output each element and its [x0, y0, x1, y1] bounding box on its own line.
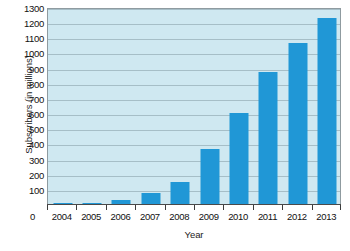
bar-slot	[224, 9, 253, 204]
y-tick-label: 1000	[24, 48, 44, 59]
x-axis-tick-labels: 2004200520062007200820092010201120122013	[47, 211, 341, 225]
x-tick-mark	[165, 205, 166, 210]
x-tick-label: 2007	[140, 211, 160, 222]
origin-label: 0	[30, 211, 35, 222]
y-tick-label: 1100	[25, 33, 44, 44]
y-tick-label: 800	[29, 78, 44, 89]
bar-slot	[313, 9, 341, 204]
y-tick-label: 700	[29, 93, 44, 104]
x-axis-title: Year	[47, 229, 341, 240]
y-tick-label: 300	[29, 154, 44, 165]
bar-2010	[230, 113, 249, 204]
x-tick-label: 2004	[52, 211, 72, 222]
x-tick-mark	[340, 205, 341, 210]
x-tick-label: 2010	[228, 211, 248, 222]
bar-2012	[288, 43, 307, 204]
y-tick-label: 400	[29, 139, 44, 150]
y-tick-label: 500	[29, 124, 44, 135]
bars-group	[48, 9, 340, 204]
bar-slot	[77, 9, 106, 204]
bar-slot	[48, 9, 77, 204]
x-tick-label: 2013	[316, 211, 336, 222]
bar-slot	[166, 9, 195, 204]
y-tick-label: 200	[29, 169, 44, 180]
bar-2013	[318, 18, 337, 204]
bar-2009	[200, 149, 219, 204]
x-tick-mark	[253, 205, 254, 210]
bar-slot	[107, 9, 136, 204]
x-tick-label: 2006	[111, 211, 131, 222]
y-tick-label: 100	[29, 184, 44, 195]
bar-2008	[171, 182, 190, 204]
bar-slot	[136, 9, 165, 204]
x-tick-mark	[223, 205, 224, 210]
x-tick-label: 2009	[199, 211, 219, 222]
y-tick-label: 900	[29, 63, 44, 74]
bar-2007	[141, 193, 160, 204]
x-tick-label: 2012	[287, 211, 307, 222]
bar-slot	[195, 9, 224, 204]
bar-slot	[254, 9, 283, 204]
x-tick-label: 2008	[169, 211, 189, 222]
x-tick-mark	[47, 205, 48, 210]
x-tick-label: 2011	[258, 211, 277, 222]
y-tick-label: 1200	[24, 18, 44, 29]
x-axis-ticks	[47, 205, 341, 210]
x-tick-mark	[135, 205, 136, 210]
x-tick-mark	[194, 205, 195, 210]
x-tick-mark	[106, 205, 107, 210]
y-tick-label: 600	[29, 109, 44, 120]
x-tick-mark	[282, 205, 283, 210]
bar-chart-figure: Subscribers (in millions) 10020030040050…	[0, 0, 350, 251]
x-tick-mark	[312, 205, 313, 210]
plot-area	[47, 8, 341, 205]
bar-slot	[283, 9, 312, 204]
bar-2011	[259, 72, 278, 204]
x-tick-label: 2005	[81, 211, 101, 222]
x-tick-mark	[76, 205, 77, 210]
y-tick-label: 1300	[24, 3, 44, 14]
